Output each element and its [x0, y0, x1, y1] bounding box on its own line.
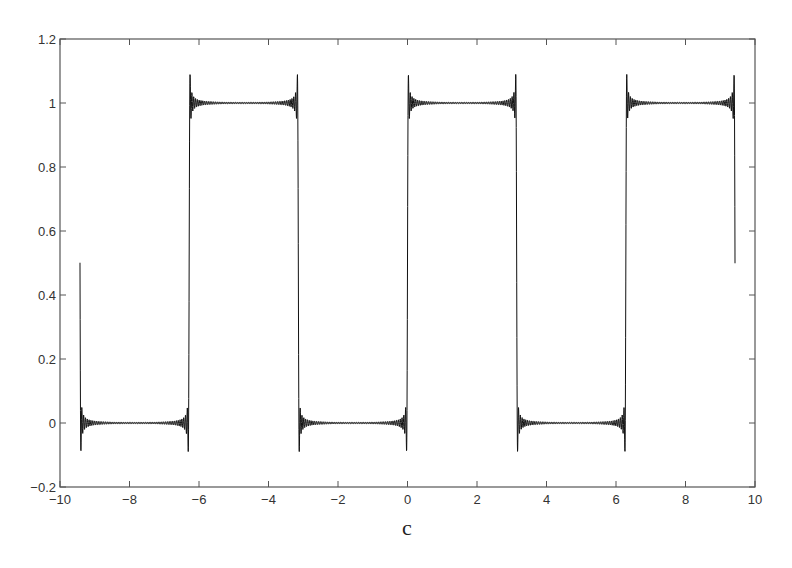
x-tick-label: 8 — [682, 492, 689, 507]
x-tick-label: −8 — [122, 492, 137, 507]
y-tick-label: 1 — [49, 96, 56, 111]
x-tick-label: 2 — [473, 492, 480, 507]
y-tick-label: 0.6 — [38, 224, 56, 239]
x-tick-label: −2 — [331, 492, 346, 507]
x-tick-label: −6 — [192, 492, 207, 507]
figure-caption-label: c — [402, 515, 412, 540]
y-tick-label: 0.8 — [38, 160, 56, 175]
y-tick-label: 0 — [49, 416, 56, 431]
y-tick-label: 0.2 — [38, 352, 56, 367]
x-tick-label: 0 — [404, 492, 411, 507]
series-fourier-square-wave — [80, 74, 735, 451]
x-tick-label: −4 — [261, 492, 276, 507]
x-tick-label: 10 — [748, 492, 762, 507]
y-tick-label: 0.4 — [38, 288, 56, 303]
x-tick-label: 4 — [543, 492, 550, 507]
y-tick-label: 1.2 — [38, 32, 56, 47]
y-tick-label: −0.2 — [30, 480, 56, 495]
square-wave-chart: −10−8−6−4−20246810 −0.200.20.40.60.811.2… — [0, 0, 792, 568]
x-axis-ticks: −10−8−6−4−20246810 — [49, 39, 762, 507]
x-tick-label: 6 — [612, 492, 619, 507]
series-line — [80, 74, 735, 451]
